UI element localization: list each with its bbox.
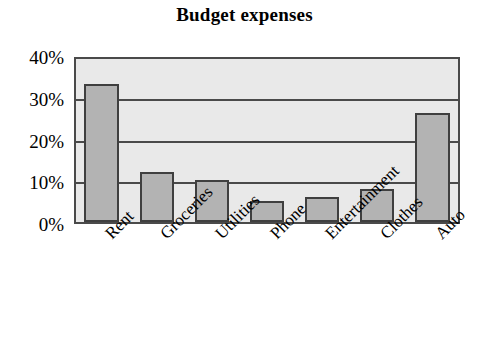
x-axis: RentGroceriesUtilitiesPhoneEntertainment…: [74, 224, 460, 334]
chart-title: Budget expenses: [0, 3, 489, 27]
y-axis: 0%10%20%30%40%: [0, 57, 70, 224]
bar-chart: Budget expenses 0%10%20%30%40% RentGroce…: [0, 0, 489, 337]
y-tick-label: 30%: [29, 89, 64, 108]
gridline-30%: [76, 99, 458, 101]
y-tick-label: 20%: [29, 131, 64, 150]
gridline-10%: [76, 182, 458, 184]
plot-area: [74, 57, 460, 224]
y-tick-label: 0%: [39, 215, 64, 234]
y-tick-label: 40%: [29, 48, 64, 67]
y-tick-label: 10%: [29, 173, 64, 192]
gridline-20%: [76, 141, 458, 143]
